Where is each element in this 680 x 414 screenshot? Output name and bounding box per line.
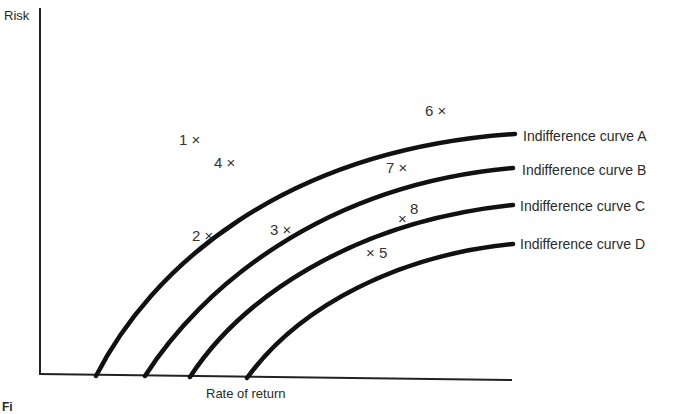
point-2: 2 ×	[192, 228, 213, 243]
curve-label-c: Indifference curve C	[520, 198, 645, 214]
caption-fragment: Fi	[2, 400, 13, 414]
x-axis-label: Rate of return	[206, 386, 286, 401]
indifference-curve-b	[145, 168, 513, 376]
point-6: 6 ×	[425, 103, 446, 118]
indifference-curve-d	[247, 244, 513, 378]
y-axis-label: Risk	[4, 8, 29, 23]
point-4: 4 ×	[214, 155, 235, 170]
point-1: 1 ×	[179, 132, 200, 147]
point-7: 7 ×	[386, 160, 407, 175]
curve-label-a: Indifference curve A	[523, 128, 646, 144]
point-8-mark: ×	[398, 211, 407, 226]
point-3: 3 ×	[270, 222, 291, 237]
curve-label-d: Indifference curve D	[520, 236, 645, 252]
point-8-number: 8	[410, 201, 418, 216]
point-5: × 5	[366, 245, 387, 260]
x-axis	[39, 374, 512, 380]
curve-label-b: Indifference curve B	[522, 162, 646, 178]
